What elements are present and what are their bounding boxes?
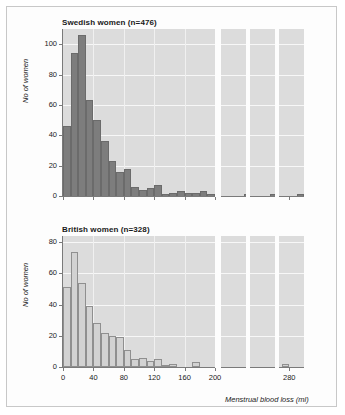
x-axis-line-4 [279, 367, 304, 368]
histogram-bar [147, 188, 155, 196]
y-axis-tick-label: 100 [29, 39, 57, 48]
x-axis-title: Menstrual blood loss (ml) [225, 395, 309, 404]
x-axis-tick [93, 368, 94, 371]
y-axis-tick [59, 196, 62, 197]
gridline [221, 336, 246, 337]
histogram-bar [71, 252, 79, 367]
histogram-bar [93, 120, 101, 196]
y-axis-line [62, 29, 63, 197]
gridline [250, 166, 275, 167]
gridline [221, 166, 246, 167]
gridline [221, 75, 246, 76]
histogram-bar [63, 126, 71, 196]
x-axis-tick-label: 0 [49, 373, 77, 382]
gridline [221, 135, 246, 136]
histogram-bar [116, 337, 124, 367]
gridline [250, 105, 275, 106]
histogram-bar [154, 359, 162, 367]
x-axis-line-2 [221, 196, 246, 197]
plot-background-tail-2 [250, 236, 275, 367]
gridline [63, 75, 215, 76]
y-axis-tick [59, 305, 62, 306]
gridline-vertical [154, 236, 155, 367]
x-axis-tick-label: 200 [201, 373, 229, 382]
y-axis-tick-label: 60 [29, 100, 57, 109]
x-axis-tick [215, 197, 216, 200]
gridline [250, 305, 275, 306]
chart-panel-british: British women (n=328) No of women 020406… [7, 219, 338, 405]
histogram-bar [154, 185, 162, 196]
chart-panel-swedish: Swedish women (n=476) No of women 020406… [7, 11, 338, 216]
histogram-bar [109, 336, 117, 367]
y-axis-tick-label: 20 [29, 161, 57, 170]
gridline [279, 44, 304, 45]
x-axis-tick [93, 197, 94, 200]
x-axis-tick-label: 280 [275, 373, 303, 382]
histogram-bar [109, 161, 117, 196]
y-axis-tick [59, 44, 62, 45]
x-axis-tick-label: 80 [110, 373, 138, 382]
gridline-vertical [185, 29, 186, 196]
y-axis-tick-label: 0 [29, 191, 57, 200]
gridline-vertical [124, 236, 125, 367]
x-axis-tick-label: 160 [171, 373, 199, 382]
histogram-bar [116, 172, 124, 196]
gridline [250, 336, 275, 337]
gridline [279, 305, 304, 306]
chart-title-british: British women (n=328) [62, 225, 150, 234]
gridline [221, 242, 246, 243]
x-axis-tick [124, 197, 125, 200]
x-axis-line-1 [63, 367, 215, 368]
histogram-bar [63, 287, 71, 367]
x-axis-tick [63, 368, 64, 371]
figure-frame: Swedish women (n=476) No of women 020406… [6, 6, 337, 407]
gridline [279, 105, 304, 106]
y-axis-tick-label: 60 [29, 268, 57, 277]
gridline [221, 44, 246, 45]
histogram-bar [101, 333, 109, 367]
y-axis-tick [59, 242, 62, 243]
y-axis-tick-label: 40 [29, 130, 57, 139]
x-axis-tick [185, 197, 186, 200]
x-axis-line-1 [63, 196, 215, 197]
histogram-bar [86, 100, 94, 196]
plot-background-main [63, 236, 215, 367]
plot-background-main [63, 29, 215, 196]
y-axis-tick [59, 273, 62, 274]
histogram-bar [71, 53, 79, 196]
y-axis-tick-label: 80 [29, 237, 57, 246]
x-axis-tick [154, 368, 155, 371]
plot-background-tail-2 [250, 29, 275, 196]
histogram-bar [131, 359, 139, 367]
y-axis-tick [59, 105, 62, 106]
gridline [279, 75, 304, 76]
gridline [63, 273, 215, 274]
gridline-vertical [154, 29, 155, 196]
gridline [279, 273, 304, 274]
x-axis-tick-label: 120 [140, 373, 168, 382]
gridline [250, 44, 275, 45]
y-axis-tick [59, 135, 62, 136]
gridline [250, 75, 275, 76]
x-axis-tick [289, 197, 290, 200]
y-axis-tick [59, 75, 62, 76]
gridline [279, 336, 304, 337]
y-axis-tick [59, 336, 62, 337]
x-axis-tick [185, 368, 186, 371]
gridline [279, 135, 304, 136]
histogram-bar [78, 35, 86, 196]
y-axis-tick [59, 166, 62, 167]
histogram-bar [101, 141, 109, 196]
y-axis-tick-label: 20 [29, 331, 57, 340]
histogram-bar [124, 169, 132, 196]
plot-background-tail-3 [279, 29, 304, 196]
histogram-bar [131, 187, 139, 196]
gridline [250, 273, 275, 274]
plot-background-tail-3 [279, 236, 304, 367]
y-axis-tick [59, 367, 62, 368]
y-axis-tick-label: 40 [29, 300, 57, 309]
x-axis-line-3 [250, 367, 275, 368]
plot-background-tail-1 [221, 236, 246, 367]
histogram-bar [86, 306, 94, 367]
gridline [250, 135, 275, 136]
